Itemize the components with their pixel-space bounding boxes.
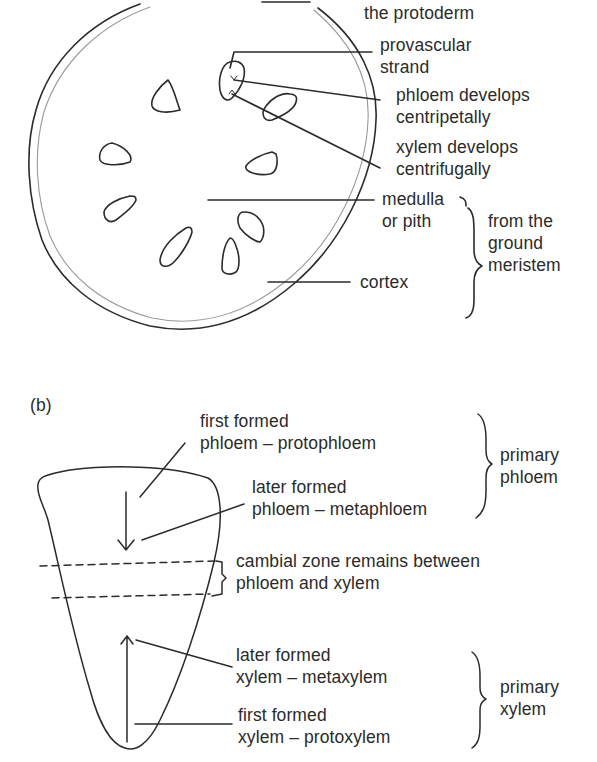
label-cambial-zone: cambial zone remains between phloem and …: [236, 550, 480, 594]
protoderm-ring: [37, 7, 368, 321]
ground-meristem-brace: [466, 208, 482, 318]
label-protoxylem: first formed xylem – protoxylem: [238, 704, 391, 748]
vascular-bundle: [263, 94, 296, 121]
cambial-line-upper: [40, 561, 216, 566]
vascular-bundle: [246, 152, 277, 175]
medulla-brace: [460, 197, 466, 206]
pointer-metaphloem: [142, 504, 244, 540]
vascular-bundle: [160, 227, 192, 266]
pointer-provascular: [230, 52, 372, 68]
bundle-outline: [38, 467, 221, 749]
vascular-bundle: [152, 80, 180, 112]
label-primary-xylem: primary xylem: [500, 676, 559, 720]
phloem-arrow-icon: [118, 492, 134, 550]
panel-label-b: (b): [30, 394, 52, 416]
vascular-bundle: [100, 143, 131, 165]
label-provascular-strand: provascular strand: [380, 34, 472, 78]
label-xylem-develops: xylem develops centrifugally: [396, 136, 518, 180]
pointer-xylem-develops: [232, 94, 380, 168]
label-cortex: cortex: [360, 271, 408, 293]
label-metaxylem: later formed xylem – metaxylem: [236, 644, 387, 688]
xylem-arrow-icon: [121, 636, 133, 742]
label-ground-meristem: from the ground meristem: [488, 210, 561, 276]
arrow-centripetal-icon: [231, 76, 237, 80]
label-phloem-develops: phloem develops centripetally: [396, 84, 530, 128]
label-protophloem: first formed phloem – protophloem: [200, 410, 376, 454]
vascular-bundle: [104, 196, 136, 222]
pointer-phloem-develops: [234, 80, 380, 100]
label-primary-phloem: primary phloem: [500, 444, 559, 488]
vascular-bundle: [222, 238, 239, 274]
label-protoderm: the protoderm: [364, 2, 474, 24]
vascular-bundle: [238, 212, 264, 242]
cambial-line-lower: [52, 594, 210, 598]
label-medulla-or-pith: medulla or pith: [382, 188, 444, 232]
primary-phloem-brace: [476, 414, 492, 518]
cambial-brace: [212, 561, 226, 596]
label-metaphloem: later formed phloem – metaphloem: [252, 476, 427, 520]
primary-xylem-brace: [472, 652, 486, 748]
pointer-protophloem: [140, 443, 185, 497]
